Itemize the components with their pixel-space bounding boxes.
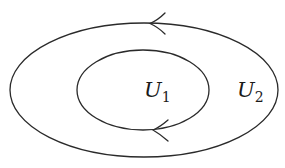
nested-ellipses-diagram: U1 U2 [0,0,285,168]
inner-boundary-curve [77,50,209,130]
label-u1: U1 [144,78,171,105]
label-u2: U2 [237,78,264,105]
inner-orientation-arrow-icon [153,120,168,141]
